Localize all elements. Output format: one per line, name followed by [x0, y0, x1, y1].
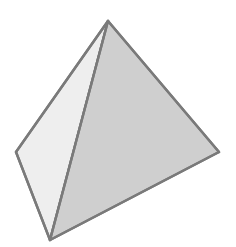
tetrahedron-figure: ... [0, 0, 236, 247]
tetrahedron-svg [0, 0, 236, 247]
